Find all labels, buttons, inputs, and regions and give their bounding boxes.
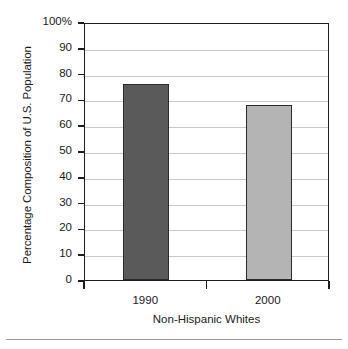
x-axis-tick-mark (83, 281, 85, 289)
y-axis-tick-label: 80 (0, 67, 72, 79)
plot-area (84, 23, 329, 281)
y-axis-tick-label: 60 (0, 118, 72, 130)
x-axis-tick-mark (328, 281, 330, 289)
bar-2000 (246, 105, 292, 280)
gridline (85, 76, 328, 77)
y-axis-tick-label: 30 (0, 196, 72, 208)
footer-divider (6, 339, 342, 340)
y-axis-tick-label: 20 (0, 221, 72, 233)
gridline (85, 50, 328, 51)
x-axis-title: Non-Hispanic Whites (84, 313, 329, 325)
x-axis-tick-mark (206, 281, 208, 289)
y-axis-tick-label: 40 (0, 170, 72, 182)
y-axis-tick-label: 0 (0, 273, 72, 285)
gridline (85, 101, 328, 102)
x-axis-tick-label-2000: 2000 (228, 294, 308, 306)
y-axis-tick-label: 90 (0, 41, 72, 53)
bar-1990 (123, 84, 169, 280)
y-axis-tick-label: 100% (0, 15, 72, 27)
y-axis-tick-label: 70 (0, 92, 72, 104)
chart-figure: Percentage Composition of U.S. Populatio… (0, 0, 348, 349)
x-axis-tick-label-1990: 1990 (105, 294, 185, 306)
y-axis-tick-label: 50 (0, 144, 72, 156)
y-axis-tick-label: 10 (0, 247, 72, 259)
